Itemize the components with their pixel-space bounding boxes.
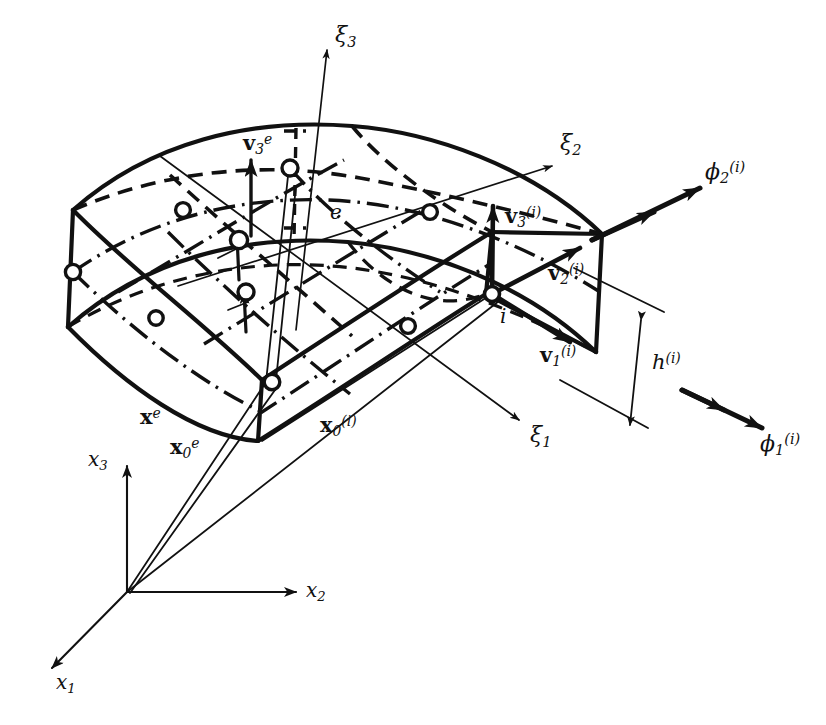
node-marker bbox=[282, 160, 298, 176]
rotation-vector-phi2 bbox=[592, 188, 700, 240]
label-xe: xe bbox=[140, 406, 161, 428]
shell-element-diagram bbox=[0, 0, 826, 725]
node-marker bbox=[65, 264, 80, 279]
label-hi: h(i) bbox=[652, 352, 681, 373]
mid-surface-line-6 bbox=[118, 160, 344, 292]
x1-axis bbox=[52, 592, 127, 668]
rotation-vector-phi1 bbox=[682, 390, 762, 428]
label-x0e: x0e bbox=[170, 436, 200, 461]
label-x2: x2 bbox=[306, 580, 326, 603]
label-v1i: v1(i) bbox=[540, 344, 576, 369]
xi3-axis bbox=[296, 50, 327, 330]
hi-extension-upper bbox=[574, 268, 664, 312]
shell-right-side-edge bbox=[492, 232, 602, 234]
label-x1: x1 bbox=[56, 672, 76, 695]
label-xi2: ξ2 bbox=[560, 132, 581, 157]
node-marker bbox=[264, 374, 280, 390]
label-x0i: x0(i) bbox=[320, 414, 357, 439]
label-element-e: e bbox=[330, 202, 342, 222]
phi2i-second-head-shaft bbox=[592, 212, 654, 240]
label-phi2i: ϕ2(i) bbox=[705, 160, 745, 186]
label-xi3: ξ3 bbox=[335, 24, 356, 49]
node-marker bbox=[230, 231, 247, 248]
label-xi1: ξ1 bbox=[530, 424, 551, 449]
xi1-axis bbox=[160, 156, 519, 420]
global-coordinate-axes bbox=[52, 466, 296, 668]
label-v3i: v3(i) bbox=[505, 205, 541, 230]
label-v3e: v3e bbox=[243, 132, 272, 157]
label-node-i: i bbox=[500, 306, 506, 326]
node-marker bbox=[423, 205, 438, 220]
phi1i-second-head-shaft bbox=[682, 390, 724, 410]
xi2-axis bbox=[178, 166, 552, 286]
label-phi1i: ϕ1(i) bbox=[760, 432, 800, 458]
node-marker bbox=[149, 311, 163, 325]
thickness-tick-line bbox=[294, 128, 296, 240]
node-i-marker bbox=[485, 287, 500, 302]
label-x3: x3 bbox=[88, 449, 108, 472]
label-v2i: v2(i) bbox=[548, 262, 584, 287]
hi-dimension-line bbox=[630, 320, 641, 425]
node-marker bbox=[401, 319, 416, 334]
node-marker bbox=[238, 284, 254, 300]
v3i-vector bbox=[492, 206, 493, 294]
node-marker bbox=[176, 203, 191, 218]
figure-canvas: ξ3 ξ2 ξ1 v3e v3(i) v2(i) v1(i) ϕ2(i) ϕ1(… bbox=[0, 0, 826, 725]
